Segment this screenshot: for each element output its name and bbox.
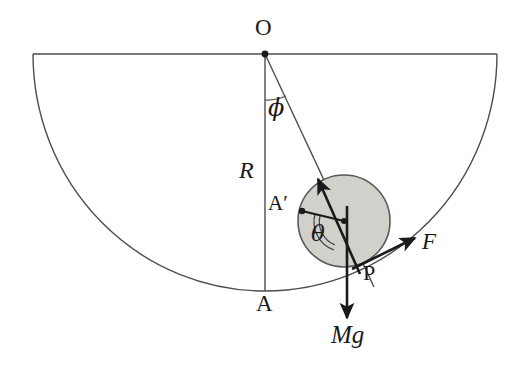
point-O-dot: [262, 51, 269, 58]
label-angle-theta: θ: [311, 222, 325, 245]
label-weight-Mg: Mg: [331, 322, 364, 347]
label-point-P: P: [363, 262, 375, 284]
physics-diagram-figure: O A A′ P R F Mg ϕ θ: [0, 0, 522, 372]
label-point-A: A: [256, 292, 273, 315]
diagram-canvas: [0, 0, 522, 372]
point-ball-center-dot: [341, 218, 347, 224]
label-point-A-prime: A′: [268, 193, 288, 214]
label-angle-phi: ϕ: [268, 96, 284, 120]
label-force-F: F: [422, 230, 436, 253]
point-A-prime-dot: [299, 208, 305, 214]
label-point-O: O: [255, 16, 272, 39]
label-radius-R: R: [239, 158, 254, 182]
